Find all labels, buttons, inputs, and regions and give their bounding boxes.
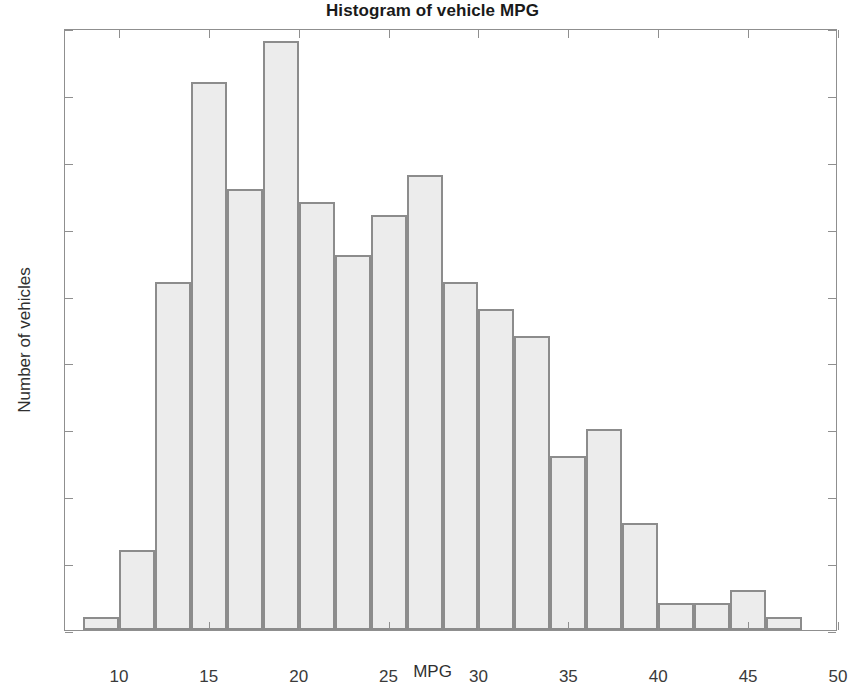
histogram-bar: [299, 202, 335, 630]
y-tick-mark-right: [828, 298, 836, 299]
histogram-bar: [263, 41, 299, 630]
y-tick-mark: [65, 364, 73, 365]
histogram-bar: [407, 175, 443, 630]
y-tick-mark: [65, 498, 73, 499]
y-tick-mark-right: [828, 164, 836, 165]
y-tick-mark: [65, 632, 73, 633]
histogram-bar: [586, 429, 622, 630]
histogram-bar: [83, 617, 119, 630]
y-tick-mark-right: [828, 30, 836, 31]
x-tick-mark: [299, 622, 300, 630]
x-tick-mark: [119, 622, 120, 630]
y-tick-mark: [65, 30, 73, 31]
histogram-bar: [371, 215, 407, 630]
histogram-bar: [550, 456, 586, 630]
y-tick-mark-right: [828, 231, 836, 232]
figure-canvas: Histogram of vehicle MPG Number of vehic…: [0, 0, 865, 694]
y-tick-mark: [65, 431, 73, 432]
x-tick-mark: [568, 622, 569, 630]
y-tick-mark: [65, 164, 73, 165]
histogram-bar: [514, 336, 550, 630]
x-tick-mark: [209, 622, 210, 630]
histogram-bar: [766, 617, 802, 630]
histogram-bar: [227, 189, 263, 630]
y-tick-mark-right: [828, 498, 836, 499]
x-tick-mark-top: [389, 30, 390, 38]
histogram-bar: [658, 603, 694, 630]
histogram-bar: [478, 309, 514, 630]
y-tick-mark: [65, 565, 73, 566]
x-tick-mark: [838, 622, 839, 630]
y-tick-mark: [65, 97, 73, 98]
plot-area: 051015202530354045 101520253035404550: [64, 29, 837, 631]
y-tick-mark-right: [828, 431, 836, 432]
x-tick-mark-top: [658, 30, 659, 38]
histogram-bars: [65, 30, 836, 630]
y-tick-mark-right: [828, 632, 836, 633]
y-tick-mark: [65, 298, 73, 299]
histogram-bar: [622, 523, 658, 630]
chart-title: Histogram of vehicle MPG: [0, 0, 865, 22]
x-tick-mark-top: [478, 30, 479, 38]
histogram-bar: [191, 82, 227, 630]
y-tick-mark-right: [828, 364, 836, 365]
y-tick-mark-right: [828, 97, 836, 98]
y-tick-mark: [65, 231, 73, 232]
histogram-bar: [119, 550, 155, 630]
x-tick-mark-top: [119, 30, 120, 38]
histogram-bar: [155, 282, 191, 630]
y-tick-mark-right: [828, 565, 836, 566]
y-axis-label: Number of vehicles: [15, 140, 35, 540]
x-tick-mark: [478, 622, 479, 630]
x-tick-mark: [658, 622, 659, 630]
x-tick-mark-top: [748, 30, 749, 38]
histogram-bar: [443, 282, 479, 630]
x-tick-mark-top: [838, 30, 839, 38]
x-tick-mark: [389, 622, 390, 630]
x-tick-mark: [748, 622, 749, 630]
x-tick-mark-top: [209, 30, 210, 38]
x-axis-label: MPG: [0, 662, 865, 682]
histogram-bar: [694, 603, 730, 630]
x-tick-mark-top: [299, 30, 300, 38]
x-tick-mark-top: [568, 30, 569, 38]
histogram-bar: [335, 255, 371, 630]
